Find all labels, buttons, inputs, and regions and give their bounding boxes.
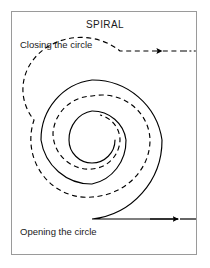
figure-title: SPIRAL [0, 19, 210, 30]
dashed-spiral-group [23, 37, 196, 197]
solid-spiral-path [41, 80, 178, 219]
label-opening-the-circle: Opening the circle [20, 226, 97, 237]
label-closing-the-circle: Closing the circle [20, 39, 92, 50]
figure-page: SPIRAL Closing the circle Opening the ci… [0, 0, 210, 268]
dashed-spiral-path [23, 37, 157, 197]
